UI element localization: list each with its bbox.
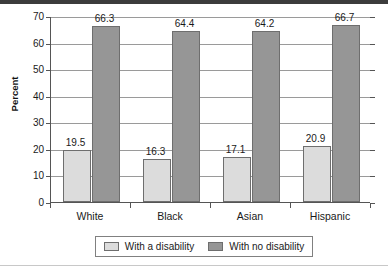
x-axis-tick xyxy=(370,203,371,208)
y-axis-tick-right xyxy=(370,70,375,71)
y-axis-tick xyxy=(46,17,51,18)
x-axis-tick xyxy=(290,203,291,208)
legend-label: With no disability xyxy=(229,241,304,252)
bar-value-label: 20.9 xyxy=(296,134,336,144)
top-border-band xyxy=(0,0,388,4)
y-axis-tick-label: 20 xyxy=(4,145,44,155)
bar xyxy=(92,26,120,202)
bar xyxy=(332,25,360,202)
y-axis-tick xyxy=(46,176,51,177)
bar xyxy=(252,31,280,202)
x-axis-tick xyxy=(50,203,51,208)
legend-swatch-icon-light xyxy=(104,242,119,251)
y-axis-tick-label: 10 xyxy=(4,171,44,181)
y-axis-tick-label: 50 xyxy=(4,65,44,75)
y-axis-tick-label: 40 xyxy=(4,92,44,102)
y-axis-tick-label: 60 xyxy=(4,39,44,49)
x-axis-category-label: White xyxy=(45,210,135,222)
bar xyxy=(63,150,91,202)
x-axis-tick xyxy=(210,203,211,208)
legend-swatch-icon-dark xyxy=(208,242,223,251)
chart-legend: With a disability With no disability xyxy=(95,236,313,257)
y-axis-tick xyxy=(46,150,51,151)
x-axis-category-label: Asian xyxy=(205,210,295,222)
y-axis-tick xyxy=(46,123,51,124)
y-axis-tick xyxy=(46,97,51,98)
bar-value-label: 66.3 xyxy=(85,14,125,24)
bar xyxy=(143,159,171,202)
y-axis-tick-label: 70 xyxy=(4,12,44,22)
y-axis-tick-right xyxy=(370,97,375,98)
y-axis-tick-right xyxy=(370,176,375,177)
bar xyxy=(303,146,331,202)
y-axis-tick xyxy=(46,44,51,45)
legend-entry-with-no-disability: With no disability xyxy=(208,241,304,252)
y-axis-tick-right xyxy=(370,150,375,151)
y-axis-tick-label: 30 xyxy=(4,118,44,128)
legend-label: With a disability xyxy=(125,241,194,252)
legend-entry-with-a-disability: With a disability xyxy=(104,241,194,252)
bar-value-label: 17.1 xyxy=(216,145,256,155)
y-axis-tick-right xyxy=(370,123,375,124)
bar-value-label: 64.2 xyxy=(245,19,285,29)
x-axis-category-label: Hispanic xyxy=(285,210,375,222)
bar xyxy=(172,31,200,202)
bar xyxy=(223,157,251,202)
x-axis-tick xyxy=(130,203,131,208)
bar-value-label: 66.7 xyxy=(325,13,365,23)
bar-value-label: 16.3 xyxy=(136,147,176,157)
y-axis-tick-label: 0 xyxy=(4,198,44,208)
y-axis-tick-right xyxy=(370,44,375,45)
bar-value-label: 64.4 xyxy=(165,19,205,29)
plot-area xyxy=(50,17,370,203)
y-axis-tick xyxy=(46,70,51,71)
chart-figure: Percent 010203040506070 19.566.316.364.4… xyxy=(0,0,388,274)
bar-value-label: 19.5 xyxy=(56,138,96,148)
y-axis-tick-right xyxy=(370,17,375,18)
bottom-divider xyxy=(0,265,388,266)
x-axis-category-label: Black xyxy=(125,210,215,222)
